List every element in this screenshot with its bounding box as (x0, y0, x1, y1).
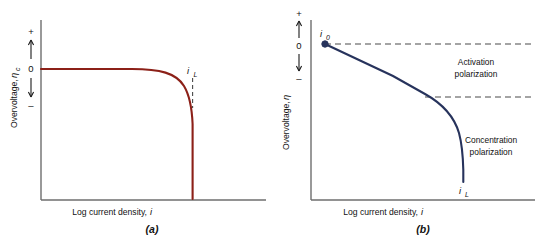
panel-a-plot: + 0 – Overvoltage, η c i L Log current d… (0, 0, 273, 239)
panel-a-caption: (a) (146, 223, 159, 235)
panel-b-x-axis-label: Log current density, (343, 207, 418, 217)
panel-a-limiting-current-subscript: L (194, 71, 198, 78)
panel-a-y-axis-symbol: η (8, 73, 19, 78)
panel-b: + 0 – Overvoltage, η i 0 i L (273, 0, 546, 239)
panel-b-polarization-curve (325, 44, 463, 182)
panel-a-minus-sign: – (28, 100, 34, 111)
panel-a-x-axis-title: Log current density, i (72, 206, 153, 217)
panel-a-plus-sign: + (28, 26, 34, 37)
panel-b-x-axis-symbol: i (421, 206, 424, 217)
panel-b-plot: + 0 – Overvoltage, η i 0 i L (273, 0, 546, 239)
panel-b-exchange-current-subscript: 0 (326, 34, 330, 41)
panel-b-minus-sign: – (296, 73, 302, 84)
panel-b-exchange-current-symbol: i (320, 28, 323, 39)
panel-b-plus-sign: + (296, 8, 302, 19)
panel-b-limiting-current-subscript: L (465, 191, 469, 198)
panel-b-x-axis-title: Log current density, i (343, 206, 424, 217)
electrochemistry-polarization-figure: + 0 – Overvoltage, η c i L Log current d… (0, 0, 546, 239)
panel-b-concentration-line2: polarization (470, 147, 513, 157)
panel-b-activation-line1: Activation (458, 57, 495, 67)
panel-b-y-axis-title: Overvoltage, η (280, 95, 291, 150)
panel-b-caption: (b) (416, 223, 430, 235)
panel-a-x-axis-symbol: i (150, 206, 153, 217)
panel-a: + 0 – Overvoltage, η c i L Log current d… (0, 0, 273, 239)
panel-a-y-axis-symbol-subscript: c (14, 67, 21, 71)
panel-b-concentration-polarization-label: Concentration polarization (465, 135, 517, 157)
panel-b-concentration-line1: Concentration (465, 135, 517, 145)
panel-a-x-axis-label: Log current density, (72, 207, 147, 217)
panel-b-activation-line2: polarization (455, 69, 498, 79)
panel-b-y-axis-label: Overvoltage, (281, 101, 291, 150)
panel-a-y-axis-label: Overvoltage, (9, 79, 19, 128)
panel-b-activation-polarization-label: Activation polarization (455, 57, 498, 79)
panel-b-y-axis-symbol: η (280, 95, 291, 100)
panel-a-limiting-current-symbol: i (187, 65, 190, 76)
panel-b-limiting-current-label: i L (459, 185, 469, 198)
panel-a-zero-label: 0 (28, 63, 33, 74)
panel-b-exchange-current-label: i 0 (320, 28, 330, 41)
panel-a-polarization-curve (41, 69, 193, 199)
panel-a-y-axis-title: Overvoltage, η c (8, 67, 21, 128)
panel-b-zero-label: 0 (296, 40, 301, 51)
panel-b-exchange-current-marker (322, 41, 328, 47)
panel-b-limiting-current-symbol: i (459, 185, 462, 196)
panel-a-limiting-current-label: i L (187, 65, 198, 78)
